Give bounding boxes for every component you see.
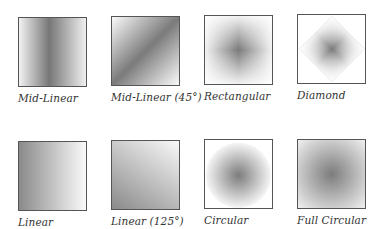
gradient-label: Mid-Linear — [18, 92, 98, 104]
gradient-mid-linear: Mid-Linear — [18, 17, 98, 104]
circular-swatch — [204, 139, 273, 209]
mid-linear-swatch — [18, 17, 87, 87]
linear-125-swatch — [111, 140, 180, 210]
gradient-linear-125: Linear (125°) — [111, 140, 191, 227]
gradient-label: Full Circular — [297, 214, 377, 226]
gradient-rectangular: Rectangular — [204, 15, 284, 102]
gradient-label: Rectangular — [204, 90, 284, 102]
gradient-linear: Linear — [18, 141, 98, 228]
mid-linear-45-swatch — [111, 16, 180, 86]
gradient-mid-linear-45: Mid-Linear (45°) — [111, 16, 191, 103]
gradient-label: Diamond — [297, 89, 377, 101]
gradient-label: Linear — [18, 216, 98, 228]
full-circular-swatch — [297, 139, 366, 209]
gradient-diamond: Diamond — [297, 14, 377, 101]
gradient-label: Circular — [204, 214, 284, 226]
diamond-swatch — [297, 14, 366, 84]
rectangular-swatch — [204, 15, 273, 85]
gradient-label: Linear (125°) — [111, 215, 191, 227]
gradient-full-circular: Full Circular — [297, 139, 377, 226]
gradient-label: Mid-Linear (45°) — [111, 91, 191, 103]
linear-swatch — [18, 141, 87, 211]
gradient-circular: Circular — [204, 139, 284, 226]
